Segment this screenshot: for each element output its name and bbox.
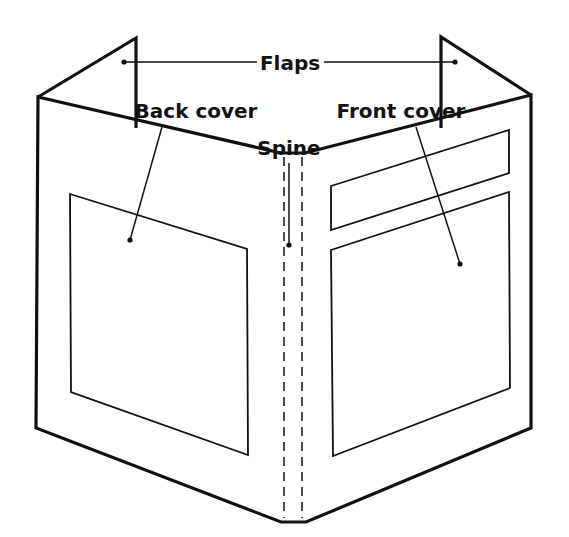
flaps-dot-left xyxy=(121,59,126,64)
front-cover-title-panel xyxy=(331,130,509,230)
flaps-label: Flaps xyxy=(260,51,320,75)
back-cover-leader xyxy=(130,127,162,240)
front-cover-label: Front cover xyxy=(337,99,466,123)
front-cover-dot xyxy=(457,261,462,266)
book-jacket-diagram: Flaps Back cover Front cover Spine xyxy=(0,0,569,537)
back-cover-dot xyxy=(127,237,132,242)
spine-label: Spine xyxy=(257,136,320,160)
back-cover-panel xyxy=(70,194,248,455)
back-cover-label: Back cover xyxy=(135,99,258,123)
left-flap xyxy=(38,38,136,128)
flaps-dot-right xyxy=(452,59,457,64)
spine-dot xyxy=(286,242,291,247)
front-cover-image-panel xyxy=(331,192,510,456)
